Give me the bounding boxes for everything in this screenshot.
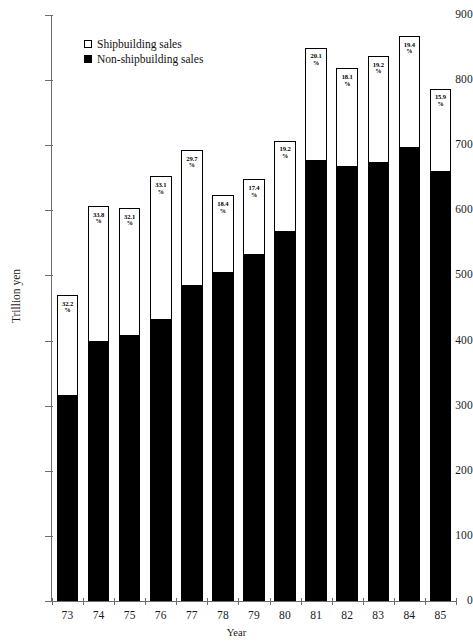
x-tick-mark — [270, 598, 271, 605]
bar-percent-symbol: % — [311, 60, 322, 67]
bar-group[interactable]: 29.7% — [181, 15, 203, 601]
chart-legend: Shipbuilding salesNon-shipbuilding sales — [84, 36, 203, 66]
bar-group[interactable]: 19.4% — [399, 15, 421, 601]
bar-segment-non-shipbuilding — [274, 231, 296, 601]
shipbuilding-sales-stacked-bar-chart: 0100200300400500600700800900 Trillion ye… — [0, 0, 473, 641]
bar-group[interactable]: 19.2% — [368, 15, 390, 601]
bar-percent-value: 33.1 — [155, 181, 166, 188]
bar-group[interactable]: 18.1% — [336, 15, 358, 601]
bar-percent-symbol: % — [279, 153, 290, 160]
x-tick-mark — [145, 598, 146, 605]
bar-segment-non-shipbuilding — [88, 341, 110, 601]
bar-percent-value: 29.7 — [186, 155, 197, 162]
x-tick-mark — [52, 598, 53, 605]
x-axis-title: Year — [0, 627, 473, 638]
x-axis-line — [51, 601, 457, 602]
bar-percent-value: 18.4 — [217, 200, 228, 207]
x-tick-mark — [238, 598, 239, 605]
bar-segment-non-shipbuilding — [150, 319, 172, 601]
x-tick-mark — [207, 598, 208, 605]
bar-segment-non-shipbuilding — [243, 254, 265, 601]
bar-percent-symbol: % — [373, 68, 384, 75]
bar-percent-label: 19.2% — [373, 62, 384, 75]
x-tick-mark — [114, 598, 115, 605]
bar-group[interactable]: 32.1% — [119, 15, 141, 601]
bar-percent-symbol: % — [124, 220, 135, 227]
bar-percent-label: 33.1% — [155, 182, 166, 195]
bar-group[interactable]: 15.9% — [430, 15, 452, 601]
bar-group[interactable]: 33.1% — [150, 15, 172, 601]
bar-percent-symbol: % — [217, 208, 228, 215]
y-axis-title: Trillion yen — [10, 236, 22, 356]
bar-percent-value: 20.1 — [311, 52, 322, 59]
x-tick-mark — [301, 598, 302, 605]
bar-segment-non-shipbuilding — [368, 162, 390, 601]
x-tick-mark — [83, 598, 84, 605]
bar-percent-label: 15.9% — [435, 94, 446, 107]
legend-item: Non-shipbuilding sales — [84, 51, 203, 66]
bar-percent-value: 19.4 — [404, 41, 415, 48]
bar-segment-non-shipbuilding — [336, 166, 358, 601]
legend-label: Non-shipbuilding sales — [97, 53, 203, 65]
bar-percent-value: 33.8 — [93, 211, 104, 218]
x-tick-mark — [425, 598, 426, 605]
bar-segment-non-shipbuilding — [57, 395, 79, 601]
bar-percent-label: 18.1% — [342, 74, 353, 87]
bar-percent-value: 15.9 — [435, 93, 446, 100]
bar-segment-non-shipbuilding — [430, 171, 452, 601]
bar-group[interactable]: 33.8% — [88, 15, 110, 601]
bar-segment-non-shipbuilding — [119, 335, 141, 601]
bar-percent-symbol: % — [404, 48, 415, 55]
bar-percent-symbol: % — [186, 162, 197, 169]
x-tick-label: 85 — [420, 609, 460, 621]
bar-segment-non-shipbuilding — [181, 285, 203, 601]
bar-percent-symbol: % — [93, 218, 104, 225]
bar-percent-label: 19.2% — [279, 146, 290, 159]
bar-percent-symbol: % — [155, 189, 166, 196]
bar-percent-label: 29.7% — [186, 156, 197, 169]
bar-percent-symbol: % — [435, 101, 446, 108]
bar-segment-non-shipbuilding — [399, 147, 421, 601]
bar-group[interactable]: 20.1% — [305, 15, 327, 601]
bar-percent-value: 18.1 — [342, 73, 353, 80]
bar-percent-label: 18.4% — [217, 201, 228, 214]
legend-swatch-icon — [84, 55, 92, 63]
x-tick-mark — [394, 598, 395, 605]
legend-item: Shipbuilding sales — [84, 36, 203, 51]
bar-percent-symbol: % — [62, 307, 73, 314]
x-tick-mark — [363, 598, 364, 605]
legend-swatch-icon — [84, 40, 92, 48]
bar-group[interactable]: 18.4% — [212, 15, 234, 601]
plot-area: 32.2%33.8%32.1%33.1%29.7%18.4%17.4%19.2%… — [52, 15, 456, 601]
bar-percent-label: 17.4% — [248, 185, 259, 198]
bar-percent-label: 32.2% — [62, 301, 73, 314]
bar-segment-non-shipbuilding — [305, 160, 327, 601]
bar-percent-value: 19.2 — [373, 61, 384, 68]
bar-group[interactable]: 19.2% — [274, 15, 296, 601]
bar-percent-value: 32.1 — [124, 213, 135, 220]
bar-percent-value: 17.4 — [248, 184, 259, 191]
bar-group[interactable]: 32.2% — [57, 15, 79, 601]
x-tick-mark — [176, 598, 177, 605]
bar-percent-symbol: % — [248, 192, 259, 199]
x-tick-mark — [332, 598, 333, 605]
x-tick-mark — [456, 598, 457, 605]
bar-percent-symbol: % — [342, 81, 353, 88]
bar-percent-label: 32.1% — [124, 214, 135, 227]
bar-segment-non-shipbuilding — [212, 272, 234, 601]
bar-percent-value: 32.2 — [62, 300, 73, 307]
bar-percent-label: 20.1% — [311, 53, 322, 66]
bar-group[interactable]: 17.4% — [243, 15, 265, 601]
bar-percent-value: 19.2 — [279, 145, 290, 152]
bar-percent-label: 33.8% — [93, 212, 104, 225]
legend-label: Shipbuilding sales — [97, 38, 182, 50]
bar-percent-label: 19.4% — [404, 42, 415, 55]
